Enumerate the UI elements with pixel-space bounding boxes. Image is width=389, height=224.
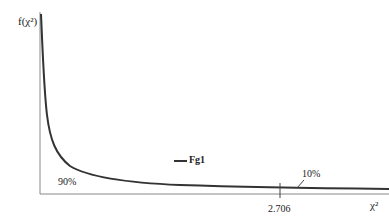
left-area-label: 90% [58,176,76,187]
right-area-label: 10% [302,168,320,179]
legend-label: Fg1 [189,154,205,165]
y-axis-label: f(χ²) [18,15,37,27]
critical-value-label: 2.706 [268,203,291,214]
chart-canvas [0,0,389,224]
x-axis-label: χ² [370,199,378,211]
density-curve [41,14,389,189]
